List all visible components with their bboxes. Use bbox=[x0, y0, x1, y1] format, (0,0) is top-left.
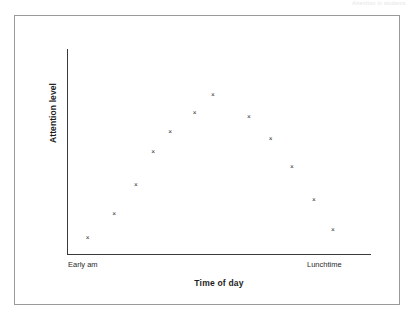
data-point-marker: × bbox=[133, 182, 139, 188]
data-point-marker: × bbox=[111, 211, 117, 217]
figure-frame: Attention level Time of day Early am Lun… bbox=[14, 15, 400, 305]
data-point-marker: × bbox=[268, 136, 274, 142]
page-canvas: Attention in students Attention level Ti… bbox=[0, 0, 414, 317]
x-tick-label-lunchtime: Lunchtime bbox=[307, 260, 342, 269]
y-axis-title: Attention level bbox=[48, 53, 58, 173]
data-point-marker: × bbox=[289, 164, 295, 170]
y-axis-line bbox=[67, 49, 68, 255]
scan-header-text: Attention in students bbox=[352, 0, 406, 6]
data-point-marker: × bbox=[85, 235, 91, 241]
data-point-marker: × bbox=[246, 114, 252, 120]
data-point-marker: × bbox=[330, 227, 336, 233]
x-axis-title: Time of day bbox=[67, 278, 371, 288]
x-tick-label-early-am: Early am bbox=[68, 260, 98, 269]
data-point-marker: × bbox=[311, 197, 317, 203]
scatter-plot: Attention level Time of day Early am Lun… bbox=[15, 16, 401, 306]
data-point-marker: × bbox=[210, 92, 216, 98]
data-point-marker: × bbox=[192, 110, 198, 116]
data-point-marker: × bbox=[150, 149, 156, 155]
data-point-marker: × bbox=[167, 129, 173, 135]
x-axis-line bbox=[67, 254, 371, 255]
